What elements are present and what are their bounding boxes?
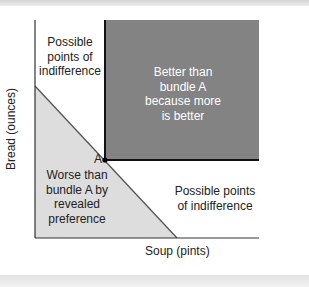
lower-left-label: Worse than bundle A by revealed preferen… [38, 168, 116, 226]
upper-right-label: Better than bundle A because more is bet… [140, 65, 226, 123]
lower-right-label: Possible points of indifference [170, 184, 260, 213]
x-axis-label: Soup (pints) [145, 244, 210, 258]
y-axis-label: Bread (ounces) [4, 84, 18, 174]
upper-left-label: Possible points of indifference [38, 35, 102, 79]
point-a-label: A [92, 152, 104, 167]
bottom-divider [0, 275, 309, 287]
